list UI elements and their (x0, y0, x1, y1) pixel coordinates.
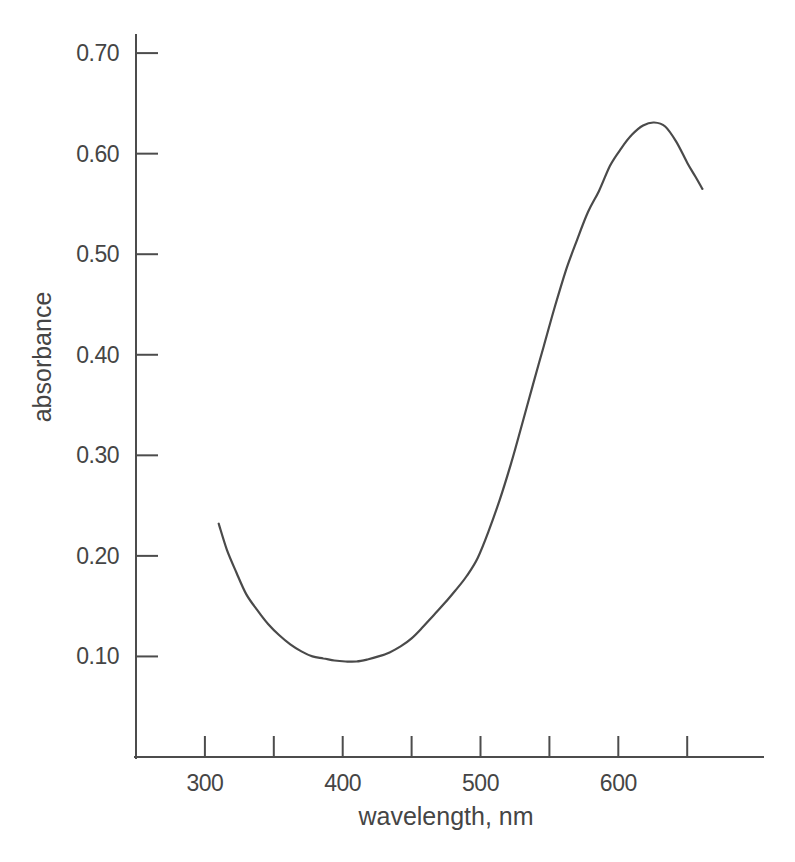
absorbance-spectrum-chart: 0.700.600.500.400.300.200.10300400500600 (0, 0, 795, 862)
x-tick-label: 600 (600, 770, 637, 796)
y-tick-label: 0.30 (76, 442, 119, 468)
y-axis-title: absorbance (28, 292, 57, 423)
x-tick-label: 300 (186, 770, 223, 796)
y-tick-label: 0.50 (76, 241, 119, 267)
x-axis-title: wavelength, nm (358, 802, 533, 831)
y-tick-label: 0.60 (76, 141, 119, 167)
absorbance-spectrum-figure: 0.700.600.500.400.300.200.10300400500600… (0, 0, 795, 862)
x-tick-label: 500 (462, 770, 499, 796)
y-tick-label: 0.10 (76, 643, 119, 669)
y-tick-label: 0.20 (76, 543, 119, 569)
y-tick-label: 0.70 (76, 40, 119, 66)
y-tick-label: 0.40 (76, 342, 119, 368)
x-tick-label: 400 (324, 770, 361, 796)
spectrum-curve (219, 122, 703, 661)
